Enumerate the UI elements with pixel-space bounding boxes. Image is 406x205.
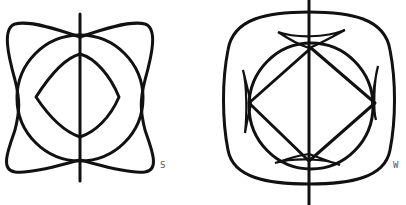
inner-rounded-diamond-s (36, 54, 119, 137)
cusp-right-w (372, 66, 378, 120)
figure-w (224, 0, 395, 205)
figure-s (6, 14, 153, 181)
diagram-canvas (0, 0, 406, 205)
inner-circle-w (249, 43, 373, 169)
figure-label-w: W (393, 160, 398, 170)
cusp-top-w (278, 30, 345, 48)
figure-label-s: S (160, 160, 165, 170)
